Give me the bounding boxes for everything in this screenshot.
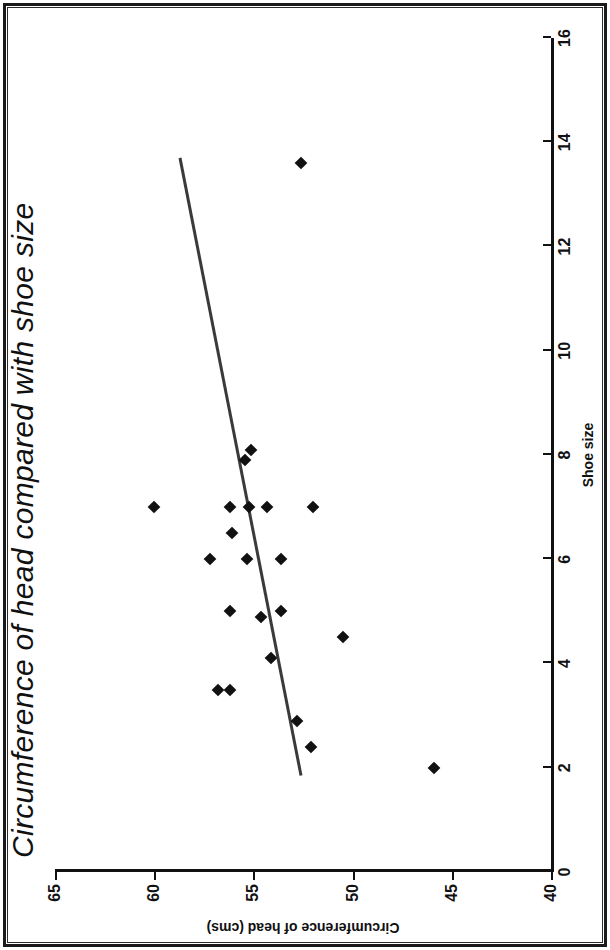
data-point: [245, 443, 258, 456]
x-tick-label: 14: [556, 133, 574, 151]
y-tick-label: 55: [244, 884, 262, 910]
y-tick: [253, 872, 255, 880]
y-tick: [353, 872, 355, 880]
data-point: [223, 605, 236, 618]
y-tick-label: 65: [46, 884, 64, 910]
y-axis-title: Circumference of head (cms): [207, 920, 400, 936]
data-point: [295, 157, 308, 170]
data-point: [275, 553, 288, 566]
rotated-chart-wrapper: Circumference of head compared with shoe…: [0, 0, 610, 950]
x-tick: [543, 453, 551, 455]
x-tick-label: 6: [556, 555, 574, 564]
data-point: [428, 761, 441, 774]
x-axis-title: Shoe size: [580, 423, 596, 488]
data-point: [336, 631, 349, 644]
x-tick: [543, 662, 551, 664]
data-point: [291, 714, 304, 727]
x-axis-line: [551, 38, 554, 872]
data-point: [225, 527, 238, 540]
x-tick: [543, 140, 551, 142]
x-tick: [543, 870, 551, 872]
data-point: [275, 605, 288, 618]
data-point: [243, 501, 256, 514]
x-tick-label: 4: [556, 659, 574, 668]
x-tick-label: 10: [556, 342, 574, 360]
data-point: [305, 741, 318, 754]
x-tick: [543, 36, 551, 38]
x-tick-label: 2: [556, 763, 574, 772]
trendline: [0, 0, 610, 950]
x-tick-label: 8: [556, 451, 574, 460]
y-tick: [452, 872, 454, 880]
scanned-chart-page: Circumference of head compared with shoe…: [0, 0, 610, 950]
data-point: [261, 501, 274, 514]
y-tick: [154, 872, 156, 880]
chart-title: Circumference of head compared with shoe…: [6, 203, 40, 858]
y-tick-label: 50: [344, 884, 362, 910]
x-tick-label: 12: [556, 238, 574, 256]
y-tick-label: 60: [145, 884, 163, 910]
data-point: [148, 501, 161, 514]
x-tick-label: 0: [556, 868, 574, 877]
x-tick: [543, 349, 551, 351]
data-point: [255, 610, 268, 623]
y-tick: [551, 872, 553, 880]
x-tick-label: 16: [556, 29, 574, 47]
data-point: [223, 501, 236, 514]
data-point: [203, 553, 216, 566]
x-tick: [543, 766, 551, 768]
data-point: [223, 683, 236, 696]
scatter-chart: Circumference of head compared with shoe…: [0, 0, 610, 950]
x-tick: [543, 245, 551, 247]
x-tick: [543, 557, 551, 559]
data-point: [307, 501, 320, 514]
data-point: [241, 553, 254, 566]
data-point: [265, 652, 278, 665]
y-tick-label: 45: [443, 884, 461, 910]
y-tick: [55, 872, 57, 880]
y-axis-line: [55, 869, 554, 872]
data-point: [211, 683, 224, 696]
y-tick-label: 40: [542, 884, 560, 910]
